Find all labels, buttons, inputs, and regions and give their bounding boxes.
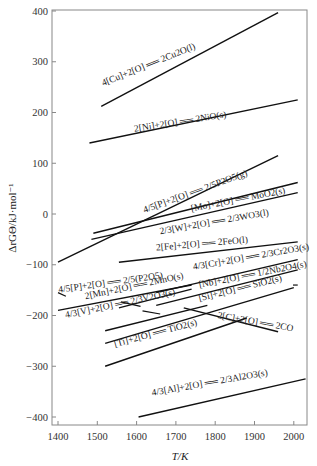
x-axis-title: T/K: [172, 450, 189, 462]
reaction-label: 4/3[Al]+2[O] ══ 2/3Al2O3(s): [151, 367, 269, 398]
ellingham-chart: 1400150016001700180019002000 40030020010…: [0, 0, 317, 466]
x-tick-label: 2000: [283, 431, 304, 442]
y-tick-label: −400: [26, 412, 48, 423]
plot-frame: [52, 10, 307, 425]
x-tick-label: 1500: [87, 431, 108, 442]
x-tick-label: 1400: [48, 431, 69, 442]
y-tick-label: 0: [43, 209, 48, 220]
y-tick-label: 100: [32, 158, 48, 169]
y-tick-label: −100: [26, 259, 48, 270]
x-tick-label: 1600: [126, 431, 147, 442]
y-tick-label: −200: [26, 310, 48, 321]
x-tick-label: 1800: [205, 431, 226, 442]
reaction-line: [101, 13, 278, 107]
reaction-label: 2[C]+2[O] ══ 2CO: [217, 310, 295, 333]
leader-segment: [142, 311, 160, 314]
reaction-label: 2[Ni]+2[O] ══ 2NiO(s): [133, 109, 227, 134]
y-tick-label: 200: [32, 107, 48, 118]
x-axis-ticks: 1400150016001700180019002000: [48, 421, 305, 442]
reaction-label: [Ti]+2[O] ══ TiO2(s): [113, 317, 198, 350]
y-axis-title: ΔrGΘ/kJ·mol⁻¹: [6, 183, 18, 252]
reaction-labels: 4[Cu]+2[O] ══ 2Cu2O(l)2[Ni]+2[O] ══ 2NiO…: [58, 41, 310, 398]
y-tick-label: 300: [32, 56, 48, 67]
x-tick-label: 1700: [165, 431, 186, 442]
reaction-label: 2[Fe]+2[O] ══ 2FeO(l): [156, 235, 249, 254]
y-tick-label: 400: [32, 6, 48, 17]
y-tick-label: −300: [26, 361, 48, 372]
x-tick-label: 1900: [244, 431, 265, 442]
